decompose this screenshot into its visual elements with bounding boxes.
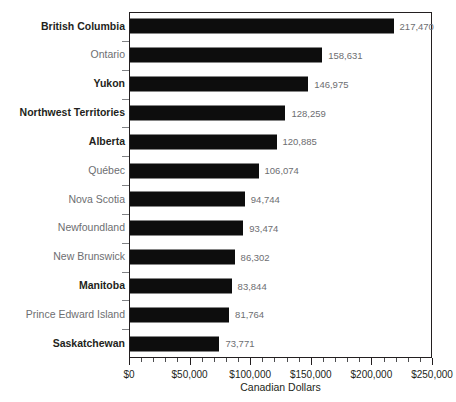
bar	[130, 221, 243, 236]
bar-group: 120,885	[130, 134, 317, 149]
x-axis-minor-tick	[153, 358, 154, 362]
bar-group: 93,474	[130, 221, 278, 236]
x-axis-minor-tick	[165, 358, 166, 362]
x-axis: $0$50,000$100,000$150,000$200,000$250,00…	[129, 358, 432, 359]
bar-value-label: 120,885	[283, 137, 317, 147]
bar	[130, 278, 232, 293]
bar-row: Manitoba83,844	[0, 272, 456, 301]
x-axis-minor-tick	[202, 358, 203, 362]
bar-value-label: 158,631	[328, 50, 362, 60]
bar	[130, 163, 259, 178]
x-axis-minor-tick	[347, 358, 348, 362]
bar-value-label: 217,470	[400, 22, 434, 32]
bar	[130, 336, 219, 351]
x-axis-minor-tick	[335, 358, 336, 362]
category-label: New Brunswick	[1, 251, 125, 263]
x-axis-tick-label: $50,000	[172, 369, 208, 380]
bar-row: Newfoundland93,474	[0, 214, 456, 243]
bar-value-label: 146,975	[314, 79, 348, 89]
bar-rows: British Columbia217,470Ontario158,631Yuk…	[0, 12, 456, 358]
bar-group: 83,844	[130, 278, 267, 293]
bar-chart: British Columbia217,470Ontario158,631Yuk…	[0, 0, 456, 402]
bar	[130, 250, 235, 265]
bar-group: 158,631	[130, 48, 363, 63]
x-axis-minor-tick	[177, 358, 178, 362]
category-label: Newfoundland	[1, 222, 125, 234]
bar	[130, 134, 277, 149]
x-axis-minor-tick	[384, 358, 385, 362]
bar-row: Nova Scotia94,744	[0, 185, 456, 214]
x-axis-minor-tick	[287, 358, 288, 362]
x-axis-minor-tick	[299, 358, 300, 362]
x-axis-major-tick	[311, 358, 312, 365]
x-axis-minor-tick	[359, 358, 360, 362]
bar-group: 86,302	[130, 250, 270, 265]
bar-row: British Columbia217,470	[0, 12, 456, 41]
bar-row: New Brunswick86,302	[0, 243, 456, 272]
bar-value-label: 106,074	[265, 166, 299, 176]
category-label: Prince Edward Island	[1, 309, 125, 321]
x-axis-tick-label: $100,000	[229, 369, 271, 380]
x-axis-major-tick	[190, 358, 191, 365]
x-axis-minor-tick	[274, 358, 275, 362]
bar	[130, 19, 394, 34]
bar	[130, 105, 285, 120]
x-axis-minor-tick	[141, 358, 142, 362]
category-label: British Columbia	[1, 21, 125, 33]
bar-group: 94,744	[130, 192, 280, 207]
bar-value-label: 81,764	[235, 310, 264, 320]
bar-value-label: 73,771	[225, 339, 254, 349]
category-label: Manitoba	[1, 280, 125, 292]
category-label: Northwest Territories	[1, 107, 125, 119]
bar-row: Ontario158,631	[0, 41, 456, 70]
bar-value-label: 93,474	[249, 223, 278, 233]
x-axis-tick-label: $200,000	[351, 369, 393, 380]
bar-value-label: 83,844	[238, 281, 267, 291]
bar-row: Prince Edward Island81,764	[0, 300, 456, 329]
bar-row: Alberta120,885	[0, 127, 456, 156]
bar-value-label: 86,302	[241, 252, 270, 262]
category-label: Yukon	[1, 78, 125, 90]
bar-group: 128,259	[130, 105, 326, 120]
x-axis-tick-label: $150,000	[290, 369, 332, 380]
category-label: Québec	[1, 165, 125, 177]
category-label: Alberta	[1, 136, 125, 148]
x-axis-minor-tick	[420, 358, 421, 362]
bar-row: Northwest Territories128,259	[0, 99, 456, 128]
bar	[130, 192, 245, 207]
bar-group: 146,975	[130, 77, 348, 92]
bar	[130, 77, 308, 92]
bar-value-label: 94,744	[251, 195, 280, 205]
x-axis-tick-label: $0	[123, 369, 134, 380]
x-axis-tick-label: $250,000	[411, 369, 453, 380]
x-axis-major-tick	[371, 358, 372, 365]
x-axis-minor-tick	[238, 358, 239, 362]
bar	[130, 307, 229, 322]
x-axis-minor-tick	[323, 358, 324, 362]
bar-group: 73,771	[130, 336, 254, 351]
category-label: Ontario	[1, 49, 125, 61]
bar-group: 106,074	[130, 163, 299, 178]
x-axis-minor-tick	[396, 358, 397, 362]
x-axis-minor-tick	[226, 358, 227, 362]
category-label: Nova Scotia	[1, 194, 125, 206]
category-label: Saskatchewan	[1, 338, 125, 350]
x-axis-major-tick	[129, 358, 130, 365]
x-axis-minor-tick	[262, 358, 263, 362]
bar-row: Québec106,074	[0, 156, 456, 185]
x-axis-minor-tick	[408, 358, 409, 362]
bar-group: 217,470	[130, 19, 434, 34]
bar	[130, 48, 322, 63]
bar-group: 81,764	[130, 307, 264, 322]
bar-value-label: 128,259	[291, 108, 325, 118]
bar-row: Saskatchewan73,771	[0, 329, 456, 358]
x-axis-minor-tick	[214, 358, 215, 362]
bar-row: Yukon146,975	[0, 70, 456, 99]
x-axis-major-tick	[432, 358, 433, 365]
x-axis-title: Canadian Dollars	[129, 381, 432, 393]
x-axis-major-tick	[250, 358, 251, 365]
